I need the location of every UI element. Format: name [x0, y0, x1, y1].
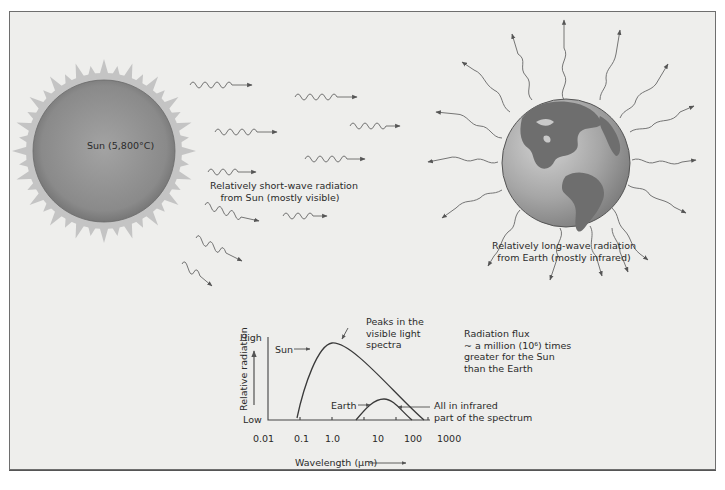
peak-annotation: Peaks in the visible light spectra [366, 316, 424, 351]
earth-curve-label: Earth [331, 400, 356, 412]
x-tick: 1.0 [325, 433, 340, 445]
flux-note-line2: ~ a million (10⁶) times [464, 340, 571, 352]
flux-note-line1: Radiation flux [464, 328, 571, 340]
flux-note: Radiation flux ~ a million (10⁶) times g… [464, 328, 571, 374]
infrared-annotation-line2: part of the spectrum [434, 412, 532, 424]
flux-note-line3: greater for the Sun [464, 351, 571, 363]
x-axis-label: Wavelength (µm) [295, 457, 377, 469]
x-tick: 10 [372, 433, 384, 445]
sun-caption: Relatively short-wave radiation from Sun… [210, 180, 350, 203]
y-axis-low-label: Low [243, 414, 262, 426]
sun-caption-line2: from Sun (mostly visible) [210, 192, 350, 204]
sun-curve-label: Sun [275, 344, 293, 356]
y-axis-label: Relative radiation [239, 351, 249, 411]
x-tick: 1000 [437, 433, 461, 445]
peak-annotation-line1: Peaks in the [366, 316, 424, 328]
peak-annotation-line2: visible light [366, 328, 424, 340]
flux-note-line4: than the Earth [464, 363, 571, 375]
peak-annotation-line3: spectra [366, 339, 424, 351]
x-tick: 0.01 [253, 433, 274, 445]
earth-caption: Relatively long-wave radiation from Eart… [489, 240, 639, 263]
x-tick: 0.1 [294, 433, 309, 445]
earth-caption-line1: Relatively long-wave radiation [489, 240, 639, 252]
x-tick: 100 [404, 433, 422, 445]
sun-caption-line1: Relatively short-wave radiation [210, 180, 350, 192]
earth-icon [502, 99, 630, 232]
infrared-annotation: All in infrared part of the spectrum [434, 400, 532, 423]
infrared-annotation-line1: All in infrared [434, 400, 532, 412]
sun-label: Sun (5,800°C) [87, 140, 154, 152]
earth-caption-line2: from Earth (mostly infrared) [489, 252, 639, 264]
